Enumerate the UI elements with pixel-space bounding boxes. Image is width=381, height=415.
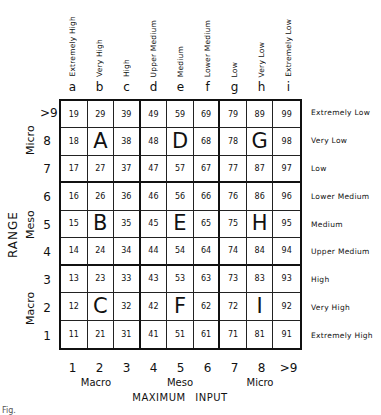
cell-code: 32 [121,302,131,311]
cell-code: 83 [255,274,265,283]
cell-code: 86 [255,192,265,201]
row-right-label: Extremely High [311,331,373,340]
cell-code: 96 [282,192,292,201]
cell-code: 24 [95,246,105,255]
matrix-cell: 69 [194,101,221,128]
cell-code: 73 [228,274,238,283]
cell-code: 95 [282,219,292,228]
matrix-cell: H [247,211,274,238]
cell-code: 75 [228,219,238,228]
figure-caption: Fig. [2,406,16,415]
cell-code: 79 [228,110,238,119]
row-group-micro: Micro [24,110,37,170]
matrix-cell: 76 [220,183,247,210]
region-letter: F [174,296,186,317]
region-letter: C [93,296,108,317]
cell-code: 57 [175,164,185,173]
matrix-cell: 46 [141,183,168,210]
matrix-cell: 32 [114,293,141,320]
cell-code: 92 [282,302,292,311]
row-right-label: Upper Medium [311,247,370,256]
column-letter: a [59,80,86,94]
column-header-label: Low [229,62,241,77]
cell-code: 29 [95,110,105,119]
column-header-label: Extremely Low [283,19,295,77]
cell-code: 46 [148,192,158,201]
matrix-cell: 95 [273,211,300,238]
cell-code: 84 [255,246,265,255]
cell-code: 56 [175,192,185,201]
cell-code: 17 [69,164,79,173]
x-axis-title: MAXIMUM INPUT [120,392,240,403]
matrix-cell: 53 [167,266,194,293]
matrix-cell: 94 [273,238,300,265]
cell-code: 27 [95,164,105,173]
cell-code: 81 [255,330,265,339]
matrix-cell: C [88,293,115,320]
matrix-cell: 11 [61,321,88,348]
cell-code: 67 [201,164,211,173]
cell-code: 54 [175,246,185,255]
matrix-cell: 19 [61,101,88,128]
matrix-cell: 54 [167,238,194,265]
matrix-cell: 42 [141,293,168,320]
matrix-cell: 59 [167,101,194,128]
cell-code: 18 [69,137,79,146]
matrix-cell: 87 [247,156,274,183]
cell-code: 94 [282,246,292,255]
matrix-cell: 23 [88,266,115,293]
row-number: 3 [40,273,54,287]
region-letter: E [173,213,186,234]
cell-code: 59 [175,110,185,119]
row-right-label: Extremely Low [311,108,370,117]
cell-code: 65 [201,219,211,228]
matrix-cell: 37 [114,156,141,183]
matrix-cell: 74 [220,238,247,265]
matrix-cell: 96 [273,183,300,210]
matrix-cell: I [247,293,274,320]
cell-code: 47 [148,164,158,173]
cell-code: 38 [121,137,131,146]
matrix-cell: 51 [167,321,194,348]
row-right-label: High [311,275,329,284]
cell-code: 98 [282,137,292,146]
cell-code: 21 [95,330,105,339]
matrix-cell: 64 [194,238,221,265]
matrix-cell: 14 [61,238,88,265]
cell-code: 89 [255,110,265,119]
row-right-label: Medium [311,220,343,229]
region-letter: H [252,213,268,234]
cell-code: 97 [282,164,292,173]
matrix-cell: 91 [273,321,300,348]
x-group-macro: Macro [66,377,126,388]
column-header-label: Very High [94,39,106,77]
matrix-cell: E [167,211,194,238]
cell-code: 63 [201,274,211,283]
cell-code: 64 [201,246,211,255]
matrix-cell: 44 [141,238,168,265]
matrix-cell: B [88,211,115,238]
matrix-cell: 33 [114,266,141,293]
matrix-cell: 34 [114,238,141,265]
cell-code: 72 [228,302,238,311]
column-letter: e [167,80,194,94]
cell-code: 44 [148,246,158,255]
column-header-label: Lower Medium [202,20,214,77]
row-number: 6 [40,190,54,204]
x-axis-number: 2 [86,361,113,375]
matrix-cell: 89 [247,101,274,128]
x-axis-number: 8 [248,361,275,375]
matrix-cell: G [247,128,274,155]
row-number: 8 [40,134,54,148]
row-group-macro: Macro [24,278,37,338]
matrix-cell: 56 [167,183,194,210]
matrix-cell: 13 [61,266,88,293]
row-group-meso: Meso [24,195,37,255]
matrix-cell: 43 [141,266,168,293]
x-axis-number: 7 [221,361,248,375]
cell-code: 14 [69,246,79,255]
row-number: 5 [40,218,54,232]
matrix-cell: 84 [247,238,274,265]
cell-code: 87 [255,164,265,173]
cell-code: 35 [121,219,131,228]
